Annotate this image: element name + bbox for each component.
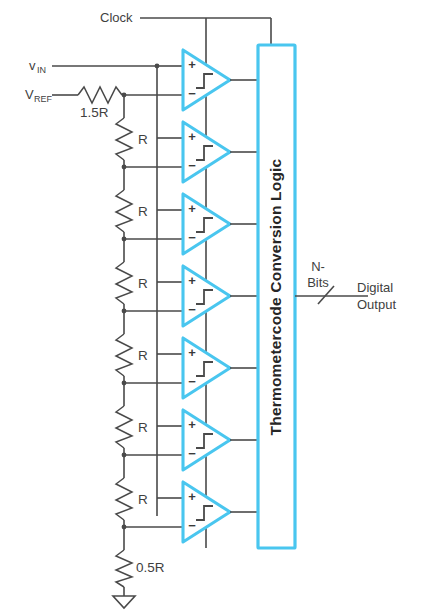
comparator-6-plus-pin: + [188,417,196,432]
comparator-7-minus-pin: − [188,518,196,533]
comparator-7[interactable]: + − [183,482,258,542]
comparator-4-minus-pin: − [188,302,196,317]
comparator-5[interactable]: + − [183,338,258,398]
resistor-R5-symbol [116,406,132,448]
comparator-6-minus-pin: − [188,446,196,461]
comparator-5-plus-pin: + [188,345,196,360]
ground-triangle-icon [113,596,135,608]
comparator-4[interactable]: + − [183,266,258,326]
resistor-R6-symbol [116,478,132,520]
resistor-R2-label: R [138,204,148,219]
comparator-4-plus-pin: + [188,273,196,288]
resistor-0.5R-label: 0.5R [136,560,165,575]
vref-label: V [25,87,34,102]
vref-junction-dot [122,93,127,98]
resistor-1.5R-symbol [78,87,122,103]
digital-output-label-line1: Digital [357,280,393,295]
comparator-7-plus-pin: + [188,489,196,504]
vref-label-group: V REF [25,87,53,104]
vref-subscript: REF [34,94,53,104]
resistor-R2-symbol [116,190,132,232]
output-bus-label-line1: N- [311,259,325,274]
comparator-2-plus-pin: + [188,129,196,144]
circuit-canvas: Clock v IN V REF 1.5R R [0,0,430,610]
vref-input-net [52,87,183,118]
comparator-6[interactable]: + − [183,410,258,470]
comparator-3[interactable]: + − [183,194,258,254]
vin-net [52,64,183,516]
resistor-R3-label: R [138,276,148,291]
resistor-R1-label: R [138,132,148,147]
comparator-5-minus-pin: − [188,374,196,389]
vin-junction-dot [155,64,160,69]
comparator-1-minus-pin: − [188,86,196,101]
logic-block-label: Thermometercode Conversion Logic [267,158,284,435]
resistor-1.5R-label: 1.5R [80,105,109,120]
comparator-2-minus-pin: − [188,158,196,173]
resistor-R6-label: R [138,492,148,507]
comparator-1[interactable]: + − [183,50,258,110]
vin-subscript: IN [37,65,46,75]
comparator-3-minus-pin: − [188,230,196,245]
resistor-R3-symbol [116,262,132,304]
vin-label-group: v IN [29,58,46,75]
vin-label: v [29,58,36,73]
clock-label: Clock [100,10,133,25]
ground-symbol [113,596,135,608]
resistor-R1-symbol [116,118,132,160]
resistor-0.5R-symbol [116,550,132,587]
comparator-2[interactable]: + − [183,122,258,182]
resistor-R5-label: R [138,420,148,435]
digital-output-label-line2: Output [357,297,396,312]
flash-adc-diagram: Clock v IN V REF 1.5R R [0,0,430,610]
resistor-R4-symbol [116,334,132,376]
output-bus-label-line2: Bits [307,275,329,290]
comparator-1-plus-pin: + [188,57,196,72]
comparator-3-plus-pin: + [188,201,196,216]
resistor-R4-label: R [138,348,148,363]
resistor-ladder: R R R R R R [116,118,183,596]
